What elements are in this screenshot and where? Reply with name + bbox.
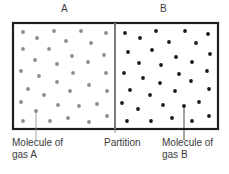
molecule-dot — [95, 102, 99, 106]
molecule-dot — [64, 39, 68, 43]
chamber-b-title: B — [160, 3, 167, 14]
molecule-dot — [52, 29, 56, 33]
molecule-dot — [77, 104, 81, 108]
molecule-dot — [197, 100, 201, 104]
molecule-dot — [126, 50, 130, 54]
molecule-dot — [55, 62, 59, 66]
molecule-dot — [189, 79, 193, 83]
molecule-dot — [190, 60, 194, 64]
molecule-dot — [207, 114, 211, 118]
gas-a-label-line1: Molecule of — [12, 137, 63, 149]
molecule-dot — [104, 31, 108, 35]
molecule-dot — [137, 61, 141, 65]
molecule-dot — [149, 119, 153, 123]
molecule-dot — [125, 119, 129, 123]
molecule-dot — [102, 53, 106, 57]
molecule-dot — [148, 93, 152, 97]
molecule-dot — [150, 48, 154, 52]
molecule-dot — [26, 87, 30, 91]
molecule-dot — [66, 116, 70, 120]
molecule-dot — [19, 100, 23, 104]
molecule-dot — [174, 55, 178, 59]
molecule-dot — [158, 81, 162, 85]
molecule-dot — [123, 31, 127, 35]
molecule-dot — [48, 119, 52, 123]
molecule-dot — [33, 58, 37, 62]
partition-label: Partition — [104, 137, 141, 149]
molecule-dot — [170, 116, 174, 120]
gas-b-molecules — [120, 29, 212, 123]
molecule-dot — [55, 80, 59, 84]
molecule-dot — [173, 89, 177, 93]
molecule-dot — [208, 52, 212, 56]
molecule-dot — [177, 72, 181, 76]
molecule-dot — [104, 71, 108, 75]
molecule-dot — [56, 103, 60, 107]
molecule-dot — [42, 93, 46, 97]
molecule-dot — [138, 36, 142, 40]
gas-b-label: Molecule of gas B — [162, 137, 213, 161]
molecule-dot — [19, 69, 23, 73]
molecule-dot — [37, 74, 41, 78]
molecule-dot — [161, 103, 165, 107]
molecule-dot — [141, 76, 145, 80]
molecule-dot — [183, 29, 187, 33]
molecule-dot — [128, 88, 132, 92]
gas-a-label: Molecule of gas A — [12, 137, 63, 161]
molecule-dot — [207, 87, 211, 91]
molecule-dot — [136, 107, 140, 111]
molecule-dot — [154, 29, 158, 33]
molecule-dot — [21, 47, 25, 51]
molecule-dot — [89, 41, 93, 45]
molecule-dot — [105, 114, 109, 118]
molecule-dot — [159, 63, 163, 67]
molecule-dot — [21, 119, 25, 123]
gas-a-molecules — [19, 29, 109, 124]
molecule-dot — [122, 71, 126, 75]
gas-b-label-line1: Molecule of — [162, 137, 213, 149]
molecule-dot — [206, 32, 210, 36]
molecule-dot — [87, 120, 91, 124]
molecule-dot — [86, 60, 90, 64]
molecule-dot — [47, 47, 51, 51]
molecule-dot — [71, 71, 75, 75]
molecule-dot — [105, 89, 109, 93]
molecule-dot — [79, 29, 83, 33]
chamber-a-title: A — [61, 3, 68, 14]
molecule-dot — [194, 41, 198, 45]
molecule-dot — [70, 54, 74, 58]
gas-b-label-line2: gas B — [162, 149, 213, 161]
molecule-dot — [35, 36, 39, 40]
molecule-dot — [190, 119, 194, 123]
molecule-dot — [205, 69, 209, 73]
molecule-dot — [21, 30, 25, 34]
molecule-dot — [167, 40, 171, 44]
molecule-dot — [87, 83, 91, 87]
molecule-dot — [68, 89, 72, 93]
gas-a-label-line2: gas A — [12, 149, 63, 161]
molecule-dot — [120, 101, 124, 105]
